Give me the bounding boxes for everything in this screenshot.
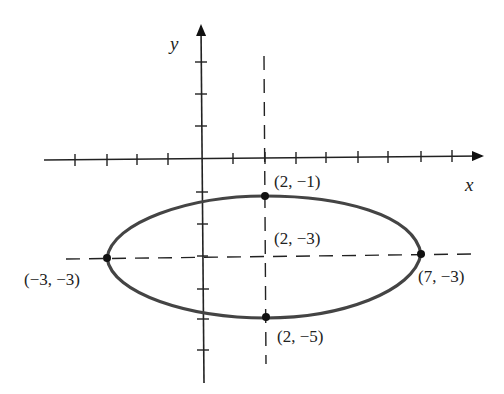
x-axis-label: x xyxy=(464,174,474,195)
horizontal-guide xyxy=(66,254,474,259)
y-axis-label: y xyxy=(168,33,179,54)
x-axis xyxy=(44,150,482,166)
y-axis xyxy=(195,26,209,383)
point-label-top: (2, −1) xyxy=(274,172,320,191)
point-label-bottom: (2, −5) xyxy=(277,327,323,346)
point-label-left: (−3, −3) xyxy=(24,270,80,289)
ellipse-diagram: y x (2, −1) (2, −3) (−3, −3) (7, −3) (2,… xyxy=(0,0,504,394)
ellipse-curve xyxy=(107,196,421,318)
point-label-right: (7, −3) xyxy=(418,267,464,286)
point-label-center: (2, −3) xyxy=(274,229,320,248)
